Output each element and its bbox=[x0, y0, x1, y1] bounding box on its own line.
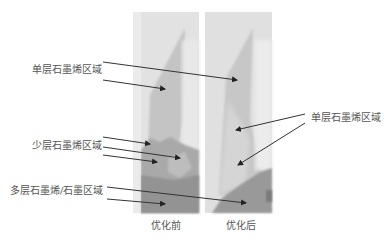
label-few-layer: 少层石墨烯区域 bbox=[32, 140, 102, 152]
label-single-layer-right: 单层石墨烯区域 bbox=[311, 112, 381, 124]
caption-after: 优化后 bbox=[226, 220, 256, 232]
label-multi-layer: 多层石墨烯/石墨区域 bbox=[10, 185, 103, 197]
panel-before bbox=[133, 12, 199, 213]
caption-before: 优化前 bbox=[151, 220, 181, 232]
panel-after bbox=[205, 12, 272, 213]
label-single-layer-left: 单层石墨烯区域 bbox=[32, 64, 102, 76]
